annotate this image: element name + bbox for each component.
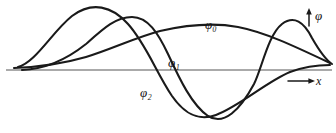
y-axis-label: φ (315, 9, 322, 22)
curve-label-phi1: φ₁ (168, 56, 180, 69)
curve-label-phi2: φ₂ (140, 86, 152, 99)
x-axis-arrow-icon (288, 78, 315, 84)
curve-label-phi1-base: φ₁ (168, 55, 180, 70)
x-axis-label: x (316, 75, 321, 87)
phi-axis-arrow-icon (306, 8, 312, 26)
curve-label-phi0-base: φ₀ (205, 17, 217, 32)
wavefunction-figure: φ₀ φ₁ φ₂ φ x (0, 0, 336, 133)
curve-label-phi2-base: φ₂ (140, 85, 152, 100)
curve-label-phi0: φ₀ (205, 18, 217, 31)
